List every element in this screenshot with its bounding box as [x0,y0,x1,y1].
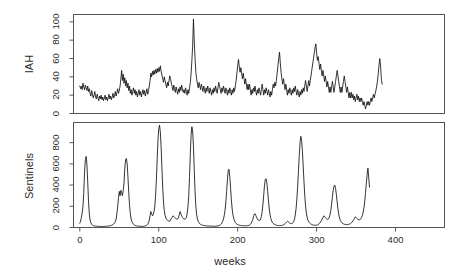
x-tick-label: 100 [139,234,179,245]
sentinels-axis-title: Sentinels [23,133,35,219]
y-tick-label: 800 [49,127,60,157]
y-tick-label: 100 [49,6,60,36]
x-tick-label: 200 [218,234,258,245]
x-tick-label: 400 [376,234,416,245]
x-tick-label: 300 [297,234,337,245]
x-tick-label: 0 [60,234,100,245]
x-axis-title: weeks [0,255,460,267]
iah-axis-title: IAH [23,34,35,94]
